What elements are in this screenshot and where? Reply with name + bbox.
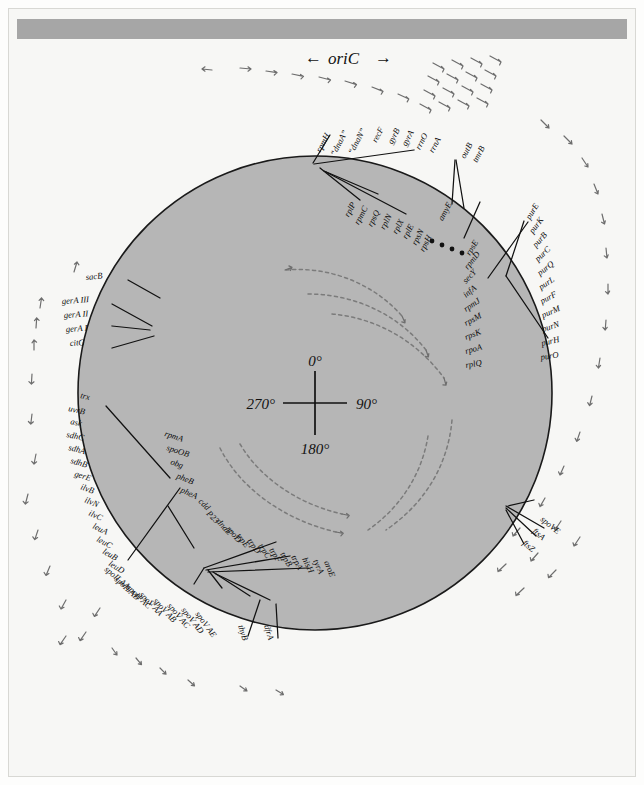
division-genes: spoVE ftsA ftsZ (521, 514, 563, 554)
degree-180-label: 180° (301, 441, 330, 457)
gene-label: purO (539, 350, 559, 363)
oric-right-arrow: → (375, 48, 392, 67)
gene-label: thyB (236, 624, 251, 643)
gene-label: gerA III (61, 294, 90, 306)
gene-label: “dnaA” (328, 128, 350, 157)
chromosome-map-figure: 0° 90° 180° 270° ← oriC → (8, 8, 636, 777)
gene-label: ftsZ (521, 538, 537, 554)
gene-label: gerA I (65, 322, 88, 334)
gene-label: gerA II (63, 308, 89, 320)
degree-270-label: 270° (247, 396, 276, 412)
page-canvas: 0° 90° 180° 270° ← oriC → (0, 0, 644, 785)
degree-0-label: 0° (308, 353, 322, 369)
gene-label: sacB (85, 270, 103, 282)
gene-label: citG (69, 337, 85, 348)
gene-label: “dnaN” (346, 126, 368, 156)
thymidylate-genes: thyB dfrA (236, 624, 276, 643)
degree-90-label: 90° (356, 396, 377, 412)
gene-label: ftsA (531, 526, 548, 543)
sacb-gene: sacB (85, 270, 103, 282)
oric-left-arrow: ← (305, 48, 322, 67)
oric-label: oriC (328, 49, 360, 68)
gene-label: purN (540, 319, 562, 335)
origin-region-genes: rpmH “dnaA” “dnaN” recF gyrB gyrA rrnO r… (314, 125, 444, 158)
gene-label: recF (369, 125, 386, 144)
oric-heading: ← oriC → (305, 48, 392, 68)
gene-label: ask (70, 416, 83, 428)
gene-label: ilvB (79, 481, 96, 495)
